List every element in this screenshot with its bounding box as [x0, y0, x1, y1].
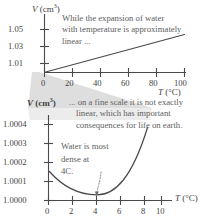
- figure-root: V (cm3) 1.05 1.03 1.01 0 20 40 60 80 100…: [0, 0, 203, 223]
- bottom-y-axis-unit-close: ): [53, 98, 56, 108]
- bottom-annotation-line-3: consequences for life on earth.: [69, 120, 183, 131]
- top-chart-x-tick-label-80: 80: [149, 79, 158, 88]
- bottom-chart-x-tick-label-10: 10: [156, 207, 165, 216]
- bottom-chart-y-tick-label-1-0003: 1.0003: [3, 139, 27, 148]
- bottom-chart-x-tick-label-8: 8: [141, 207, 145, 216]
- top-annotation-line-2: with temperature is approximately: [62, 24, 181, 35]
- bottom-chart-callout: Water is most dense at 4C.: [61, 140, 109, 178]
- top-chart-annotation: While the expansion of water with temper…: [62, 13, 181, 47]
- bottom-chart-x-axis-title: T (°C): [175, 194, 198, 204]
- top-chart-y-tick-label-1-03: 1.03: [8, 42, 23, 51]
- callout-line-3: 4C.: [61, 165, 109, 178]
- bottom-chart-y-tick-label-1-0002: 1.0002: [3, 158, 27, 167]
- bottom-chart-y-axis-title: V (cm3): [27, 97, 56, 109]
- top-annotation-line-3: linear ...: [62, 36, 181, 47]
- top-chart-y-axis-title: V (cm3): [32, 3, 60, 15]
- top-chart-y-tick-label-1-01: 1.01: [8, 59, 23, 68]
- bottom-y-axis-unit-open: (cm: [33, 98, 50, 108]
- top-y-axis-unit-close: ): [57, 4, 60, 14]
- bottom-chart-y-tick-label-1-0004: 1.0004: [3, 120, 27, 129]
- callout-leader-arrowhead: [95, 192, 99, 197]
- top-chart-x-tick-label-40: 40: [93, 79, 102, 88]
- bottom-chart-y-tick-label-1-0000: 1.0000: [3, 196, 27, 205]
- bottom-annotation-line-2: linear, which has important: [69, 108, 183, 119]
- bottom-chart-x-tick-label-2: 2: [69, 207, 73, 216]
- top-chart-x-tick-label-0: 0: [41, 79, 45, 88]
- top-x-axis-unit: (°C): [163, 87, 181, 97]
- top-y-axis-unit-open: (cm: [38, 4, 54, 14]
- callout-line-1: Water is most: [61, 140, 109, 153]
- top-chart-x-tick-label-20: 20: [65, 79, 74, 88]
- bottom-x-axis-unit: (°C): [180, 193, 198, 203]
- bottom-chart-x-tick-label-0: 0: [45, 207, 49, 216]
- top-chart-y-tick-label-1-05: 1.05: [8, 25, 23, 34]
- top-annotation-line-1: While the expansion of water: [62, 13, 181, 24]
- top-annotation-italic-word: approximately: [131, 24, 181, 34]
- top-chart-x-tick-label-60: 60: [121, 79, 130, 88]
- bottom-chart-annotation: ... on a fine scale it is not exactly li…: [69, 97, 183, 131]
- bottom-chart-x-tick-label-4: 4: [93, 207, 97, 216]
- callout-line-2: dense at: [61, 153, 109, 166]
- bottom-chart-x-tick-label-6: 6: [117, 207, 121, 216]
- bottom-chart-y-tick-label-1-0001: 1.0001: [3, 177, 27, 186]
- bottom-annotation-line-1: ... on a fine scale it is not exactly: [69, 97, 183, 108]
